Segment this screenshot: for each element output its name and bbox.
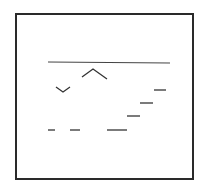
caret-down-mark <box>56 87 70 92</box>
diagram-frame <box>16 14 193 179</box>
line-diagram <box>0 0 203 190</box>
top-horizontal-line <box>48 62 170 63</box>
stair-segments <box>127 90 166 116</box>
caret-up-mark <box>82 69 107 79</box>
